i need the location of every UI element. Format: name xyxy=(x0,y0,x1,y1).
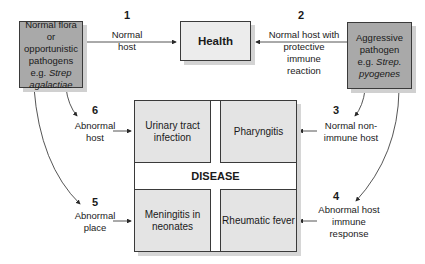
route-3-line-1: Normal non- xyxy=(325,120,377,131)
route-4-line-3: response xyxy=(329,228,368,239)
route-4-number: 4 xyxy=(326,190,346,202)
route-2-label: Normal host with protective immune react… xyxy=(266,29,342,77)
disease-rheumatic-fever: Rheumatic fever xyxy=(220,189,297,252)
right-source-species: pyogenes xyxy=(359,68,400,79)
route-4-label: Abnormal host immune response xyxy=(312,204,386,240)
route-3-line-2: immune host xyxy=(324,132,378,143)
route-6-line-1: Abnormal xyxy=(75,120,116,131)
left-source-species: agalactiae xyxy=(29,79,72,90)
route-2-line-2: protective xyxy=(283,41,324,52)
disease-uti: Urinary tractinfection xyxy=(134,100,211,163)
meningitis-line-2: neonates xyxy=(152,221,193,232)
route-3-label: Normal non- immune host xyxy=(318,120,384,144)
health-box: Health xyxy=(180,21,251,61)
uti-line-2: infection xyxy=(154,132,191,143)
arrow-route-4-curve xyxy=(356,90,399,201)
route-5-line-1: Abnormal xyxy=(75,210,116,221)
route-2-line-3: immune xyxy=(287,53,321,64)
normal-flora-box: Normal flora or opportunistic pathogens … xyxy=(19,21,83,88)
right-source-line-3: e.g. xyxy=(358,56,377,67)
disease-meningitis: Meningitis inneonates xyxy=(134,189,211,252)
left-source-line-1: Normal flora or xyxy=(25,19,77,42)
route-1-line-2: host xyxy=(118,41,136,52)
route-3-number: 3 xyxy=(326,104,346,116)
left-source-line-3: pathogens xyxy=(29,55,73,66)
route-5-number: 5 xyxy=(85,196,105,208)
left-source-line-2: opportunistic xyxy=(24,43,78,54)
right-source-line-1: Aggressive xyxy=(356,32,403,43)
route-5-label: Abnormal place xyxy=(67,210,123,234)
rheumatic-fever-label: Rheumatic fever xyxy=(222,215,295,227)
route-6-label: Abnormal host xyxy=(67,120,123,144)
uti-line-1: Urinary tract xyxy=(145,120,199,131)
meningitis-line-1: Meningitis in xyxy=(145,209,201,220)
route-1-line-1: Normal xyxy=(112,29,143,40)
route-6-line-2: host xyxy=(86,132,104,143)
arrow-route-3-curve xyxy=(355,90,365,116)
left-source-genus: Strep xyxy=(49,67,72,78)
route-5-line-2: place xyxy=(84,222,107,233)
route-2-number: 2 xyxy=(291,9,311,21)
left-source-line-4: e.g. xyxy=(30,67,49,78)
disease-pharyngitis: Pharyngitis xyxy=(220,100,297,163)
route-2-line-1: Normal host with xyxy=(269,29,340,40)
route-4-line-2: immune xyxy=(332,216,366,227)
route-2-line-4: reaction xyxy=(287,65,321,76)
right-source-line-2: pathogen xyxy=(360,44,400,55)
disease-label: DISEASE xyxy=(134,170,297,182)
health-label: Health xyxy=(198,35,233,47)
arrow-route-5-curve xyxy=(34,88,80,204)
pharyngitis-label: Pharyngitis xyxy=(234,126,283,138)
route-1-number: 1 xyxy=(117,9,137,21)
route-6-number: 6 xyxy=(85,104,105,116)
route-1-label: Normal host xyxy=(100,29,154,53)
arrow-route-6-curve xyxy=(66,88,77,116)
route-4-line-1: Abnormal host xyxy=(318,204,379,215)
aggressive-pathogen-box: Aggressive pathogen e.g. Strep. pyogenes xyxy=(347,22,412,89)
right-source-genus: Strep. xyxy=(376,56,401,67)
